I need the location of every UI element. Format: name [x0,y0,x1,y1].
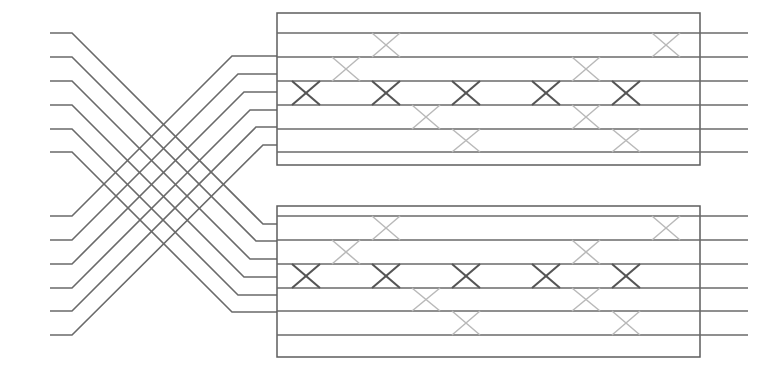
permutation-network-svg [0,0,757,376]
upper-stage-group [277,13,748,165]
lower-exchange-row-23 [332,240,600,264]
upper-exchange-row-12 [372,33,680,57]
shuffle-wire-7 [50,56,277,216]
shuffle-wire-3 [50,81,277,259]
upper-exchange-row-23 [332,57,600,81]
shuffle-wire-1 [50,33,277,224]
ascending-wire-bundle [50,56,277,335]
lower-exchange-row-45 [412,288,600,311]
lower-exchange-row-56 [452,311,640,335]
shuffle-wire-6 [50,152,277,312]
upper-exchange-row-56 [452,129,640,152]
upper-stage-rails [277,33,700,152]
shuffle-wire-8 [50,74,277,240]
lower-stage-rails [277,216,700,335]
shuffle-crossbar-group [50,33,277,335]
upper-exchange-row-34 [292,81,640,105]
lower-exchange-row-34 [292,264,640,288]
upper-stage-box [277,13,700,165]
lower-exchange-row-12 [372,216,680,240]
shuffle-wire-10 [50,110,277,288]
shuffle-wire-5 [50,129,277,295]
shuffle-wire-11 [50,127,277,311]
diagram-canvas [0,0,757,376]
upper-exchange-row-45 [412,105,600,129]
lower-stage-group [277,206,748,357]
lower-output-stubs [700,216,748,335]
upper-output-stubs [700,33,748,152]
